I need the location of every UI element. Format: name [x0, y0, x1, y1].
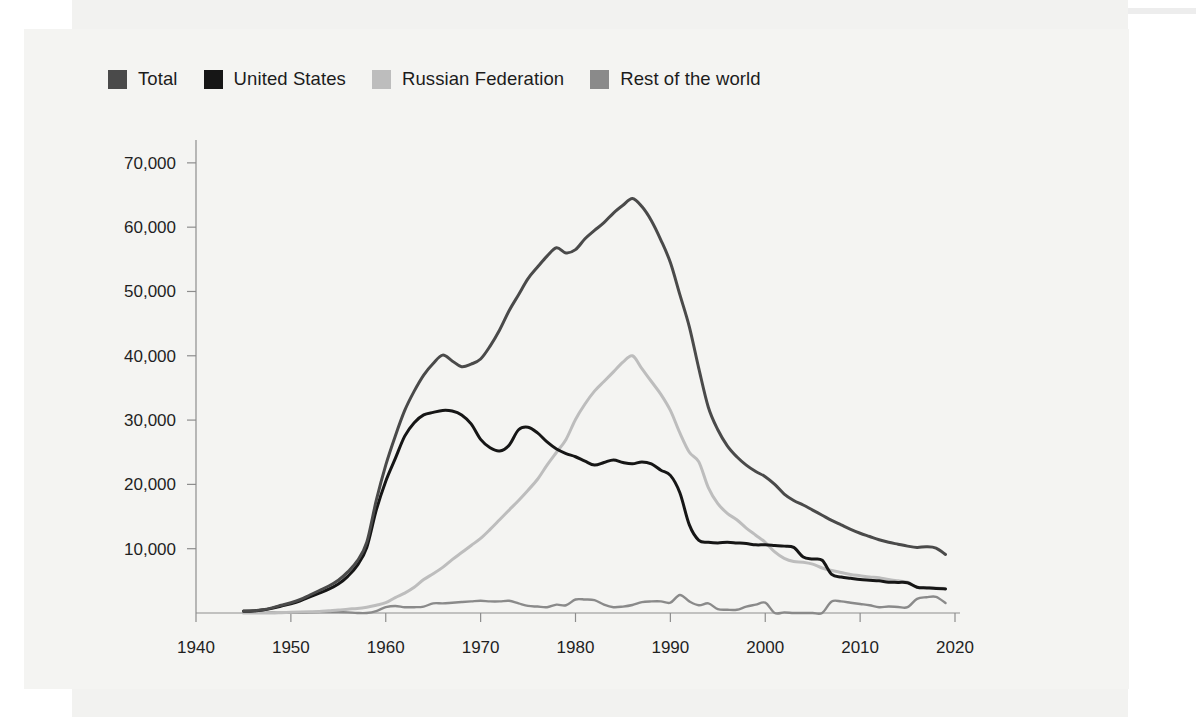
y-tick-label: 60,000	[124, 218, 176, 237]
y-tick-label: 10,000	[124, 540, 176, 559]
series-line-total	[243, 199, 945, 612]
y-tick-label: 40,000	[124, 347, 176, 366]
series-line-united-states	[243, 410, 945, 611]
line-chart-svg: 10,00020,00030,00040,00050,00060,00070,0…	[0, 0, 1196, 717]
x-tick-label: 1970	[462, 638, 500, 657]
x-tick-label: 2000	[746, 638, 784, 657]
y-tick-label: 30,000	[124, 411, 176, 430]
x-tick-label: 1980	[557, 638, 595, 657]
x-tick-label: 2010	[841, 638, 879, 657]
x-tick-label: 1940	[177, 638, 215, 657]
y-tick-label: 20,000	[124, 475, 176, 494]
x-axis-ticks: 194019501960197019801990200020102020	[177, 613, 974, 657]
x-tick-label: 1990	[651, 638, 689, 657]
y-tick-label: 70,000	[124, 154, 176, 173]
data-series-group	[243, 199, 945, 614]
x-tick-label: 2020	[936, 638, 974, 657]
x-tick-label: 1950	[272, 638, 310, 657]
axis-spines	[196, 140, 960, 613]
y-axis-ticks: 10,00020,00030,00040,00050,00060,00070,0…	[124, 154, 196, 559]
chart-plot-area: 10,00020,00030,00040,00050,00060,00070,0…	[0, 0, 1196, 717]
x-tick-label: 1960	[367, 638, 405, 657]
y-tick-label: 50,000	[124, 282, 176, 301]
series-line-rest-of-the-world	[243, 595, 945, 614]
